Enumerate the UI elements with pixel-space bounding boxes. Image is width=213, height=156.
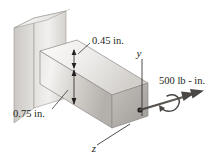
depth-dim-label: 0.75 in. <box>13 108 45 119</box>
z-axis: z <box>91 124 130 154</box>
cantilever-beam <box>40 40 148 128</box>
width-dim-label: 0.45 in. <box>92 35 124 46</box>
applied-moment-label: 500 lb - in. <box>159 75 205 86</box>
figure-canvas: 0.45 in. 0.75 in. y z <box>0 0 213 156</box>
mechanics-figure: 0.45 in. 0.75 in. y z <box>0 0 213 156</box>
z-axis-label: z <box>91 142 97 154</box>
wall-back-edge <box>66 9 70 11</box>
y-axis-label: y <box>136 47 142 59</box>
